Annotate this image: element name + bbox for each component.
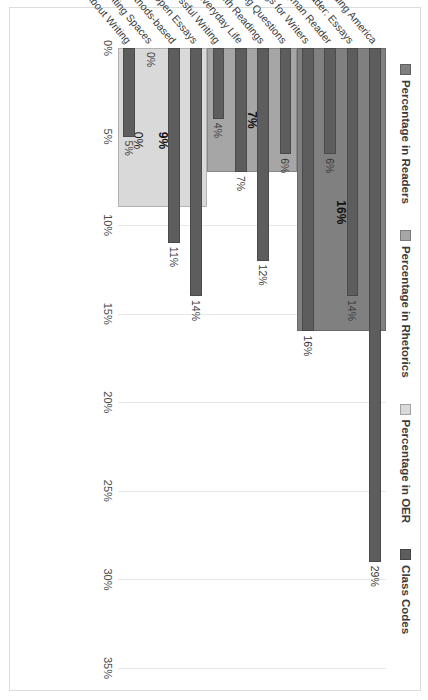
- legend-label: Percentage in OER: [400, 420, 412, 524]
- legend-item[interactable]: Percentage in Readers: [400, 64, 412, 204]
- class-code-bar-label: 14%: [190, 300, 202, 321]
- value-axis-tick-label: 35%: [102, 657, 114, 679]
- class-code-bar[interactable]: [257, 48, 269, 261]
- gridline: [118, 579, 386, 580]
- legend-swatch-icon: [401, 230, 412, 241]
- value-axis-tick-label: 30%: [102, 568, 114, 590]
- legend-item[interactable]: Percentage in Rhetorics: [400, 230, 412, 378]
- class-code-bar[interactable]: [369, 48, 381, 562]
- legend-label: Percentage in Rhetorics: [400, 246, 412, 378]
- class-code-bar[interactable]: [347, 48, 359, 296]
- chart-frame: Percentage in ReadersPercentage in Rheto…: [9, 7, 421, 691]
- chart-legend: Percentage in ReadersPercentage in Rheto…: [400, 8, 412, 690]
- value-axis-tick-label: 10%: [102, 214, 114, 236]
- class-code-bar[interactable]: [168, 48, 180, 243]
- class-code-bar[interactable]: [235, 48, 247, 172]
- class-code-bar-label: 4%: [213, 123, 225, 138]
- class-code-bar[interactable]: [123, 48, 135, 137]
- gridline: [118, 491, 386, 492]
- class-code-bar-label: 5%: [123, 141, 135, 156]
- gridline: [118, 668, 386, 669]
- class-code-bar[interactable]: [280, 48, 292, 154]
- value-axis-tick-label: 5%: [102, 129, 114, 145]
- class-code-bar[interactable]: [213, 48, 225, 119]
- class-code-bar-label: 16%: [302, 335, 314, 356]
- chart-page: Percentage in ReadersPercentage in Rheto…: [0, 0, 428, 700]
- value-axis-tick-label: 15%: [102, 303, 114, 325]
- class-code-bar-label: 0%: [146, 52, 158, 67]
- legend-swatch-icon: [401, 404, 412, 415]
- value-axis-tick-label: 0%: [102, 40, 114, 56]
- gridline: [118, 402, 386, 403]
- legend-swatch-icon: [401, 549, 412, 560]
- class-code-bar-label: 12%: [257, 265, 269, 286]
- plot-area: 0%5%10%15%20%25%30%35%16%7%9%0%29%14%6%1…: [118, 48, 386, 668]
- class-code-bar[interactable]: [302, 48, 314, 331]
- class-code-bar-label: 11%: [168, 247, 180, 267]
- legend-item[interactable]: Class Codes: [400, 549, 412, 634]
- value-axis-tick-label: 25%: [102, 480, 114, 502]
- class-code-bar[interactable]: [190, 48, 202, 296]
- class-code-bar-label: 7%: [235, 176, 247, 191]
- rotated-chart-canvas: Percentage in ReadersPercentage in Rheto…: [0, 0, 428, 700]
- legend-label: Class Codes: [400, 565, 412, 634]
- value-axis-tick-label: 20%: [102, 391, 114, 413]
- legend-item[interactable]: Percentage in OER: [400, 404, 412, 524]
- class-code-bar-label: 6%: [324, 158, 336, 173]
- class-code-bar-label: 6%: [280, 158, 292, 173]
- legend-label: Percentage in Readers: [400, 80, 412, 204]
- class-code-bar[interactable]: [324, 48, 336, 154]
- class-code-bar-label: 29%: [369, 566, 381, 587]
- legend-swatch-icon: [401, 64, 412, 75]
- class-code-bar-label: 14%: [347, 300, 359, 321]
